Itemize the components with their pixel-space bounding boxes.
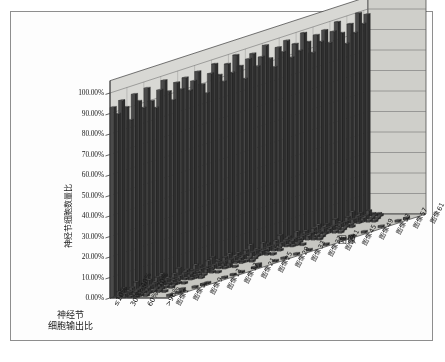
value-axis-ticklabel: 90.00%	[54, 109, 104, 118]
category-axis-title-line2: 细胞输出比	[34, 321, 106, 332]
value-axis-ticklabel: 60.00%	[54, 170, 104, 179]
value-axis-ticklabel: 70.00%	[54, 150, 104, 159]
value-axis-ticklabel: 0.00%	[54, 293, 104, 302]
chart-screenshot: 神经节细胞数量比 神经节 细胞输出比 图像 0.00%10.00%20.00%3…	[0, 0, 445, 362]
chart-3d-bar-canvas	[0, 0, 445, 362]
value-axis-ticklabel: 40.00%	[54, 211, 104, 220]
value-axis-ticklabel: 30.00%	[54, 232, 104, 241]
category-axis-title: 神经节 细胞输出比	[34, 310, 106, 332]
value-axis-ticklabel: 20.00%	[54, 252, 104, 261]
value-axis-ticklabel: 50.00%	[54, 191, 104, 200]
category-axis-title-line1: 神经节	[34, 310, 106, 321]
value-axis-ticklabel: 10.00%	[54, 273, 104, 282]
value-axis-ticklabel: 80.00%	[54, 129, 104, 138]
value-axis-ticklabel: 100.00%	[54, 88, 104, 97]
